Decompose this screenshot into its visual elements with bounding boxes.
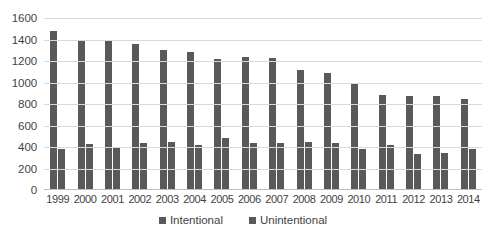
y-axis-tick-label: 600 <box>18 120 37 132</box>
x-axis-tick-label: 2006 <box>236 193 263 205</box>
chart-legend: IntentionalUnintentional <box>0 214 486 226</box>
y-axis-tick-label: 200 <box>18 163 37 175</box>
bar <box>50 31 57 190</box>
bar <box>86 144 93 190</box>
plot-wrapper: 16001400120010008006004002000 <box>0 0 486 196</box>
y-axis-tick-label: 1600 <box>12 12 37 24</box>
gridline <box>44 83 482 84</box>
y-axis-tick-label: 400 <box>18 141 37 153</box>
bar <box>379 95 386 190</box>
x-axis-tick-label: 2002 <box>126 193 153 205</box>
legend-item[interactable]: Intentional <box>159 214 223 226</box>
x-axis-tick-label: 2005 <box>208 193 235 205</box>
x-axis-tick-label: 2009 <box>318 193 345 205</box>
bar <box>250 143 257 190</box>
x-axis-tick-label: 2008 <box>290 193 317 205</box>
bar <box>351 83 358 190</box>
gridline <box>44 147 482 148</box>
y-axis-tick-label: 1000 <box>12 77 37 89</box>
x-axis-tick-label: 2000 <box>71 193 98 205</box>
gridline <box>44 104 482 105</box>
bar <box>461 99 468 190</box>
bar <box>332 143 339 190</box>
bar <box>269 58 276 190</box>
bar <box>387 145 394 190</box>
legend-item[interactable]: Unintentional <box>249 214 327 226</box>
bar <box>433 96 440 190</box>
x-axis-tick-label: 2013 <box>427 193 454 205</box>
gridline <box>44 169 482 170</box>
x-axis-tick-label: 2011 <box>373 193 400 205</box>
gridline <box>44 18 482 19</box>
legend-label: Intentional <box>170 214 223 226</box>
bar <box>140 143 147 190</box>
bar <box>297 70 304 190</box>
axis-baseline <box>44 189 482 190</box>
x-axis-tick-label: 1999 <box>44 193 71 205</box>
x-axis: 1999200020012002200320042005200620072008… <box>44 193 482 205</box>
y-axis-tick-label: 0 <box>31 184 37 196</box>
y-axis-tick-label: 1200 <box>12 55 37 67</box>
bar <box>277 143 284 190</box>
gridline <box>44 126 482 127</box>
x-axis-tick-label: 2007 <box>263 193 290 205</box>
x-axis-tick-label: 2012 <box>400 193 427 205</box>
plot-area <box>44 18 482 190</box>
bar <box>305 142 312 190</box>
x-axis-tick-label: 2004 <box>181 193 208 205</box>
x-axis-tick-label: 2014 <box>455 193 482 205</box>
bar <box>414 154 421 190</box>
bar <box>242 57 249 190</box>
y-axis-tick-label: 1400 <box>12 34 37 46</box>
legend-swatch-icon <box>159 217 166 224</box>
x-axis-tick-label: 2010 <box>345 193 372 205</box>
gridline <box>44 40 482 41</box>
bar-chart: 16001400120010008006004002000 1999200020… <box>0 0 486 236</box>
bar <box>441 153 448 190</box>
x-axis-tick-label: 2003 <box>154 193 181 205</box>
x-axis-tick-label: 2001 <box>99 193 126 205</box>
bar <box>324 73 331 190</box>
y-axis: 16001400120010008006004002000 <box>0 0 42 196</box>
bar <box>406 96 413 190</box>
gridline <box>44 61 482 62</box>
legend-label: Unintentional <box>260 214 327 226</box>
bar <box>359 149 366 190</box>
legend-swatch-icon <box>249 217 256 224</box>
bar <box>168 142 175 190</box>
y-axis-tick-label: 800 <box>18 98 37 110</box>
